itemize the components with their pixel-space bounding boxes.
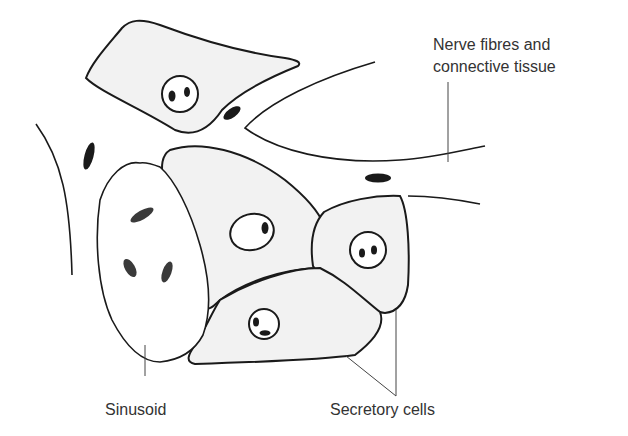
fibroblast-nucleus bbox=[81, 141, 97, 170]
label-sinusoid: Sinusoid bbox=[105, 401, 166, 418]
histology-diagram: Nerve fibres and connective tissue Sinus… bbox=[0, 0, 628, 436]
fibroblast-nucleus bbox=[365, 174, 391, 183]
label-nerve-fibres-line2: connective tissue bbox=[433, 58, 556, 75]
label-nerve-fibres-line1: Nerve fibres and bbox=[433, 36, 550, 53]
label-secretory-cells: Secretory cells bbox=[330, 401, 435, 418]
top-cell bbox=[86, 21, 299, 133]
